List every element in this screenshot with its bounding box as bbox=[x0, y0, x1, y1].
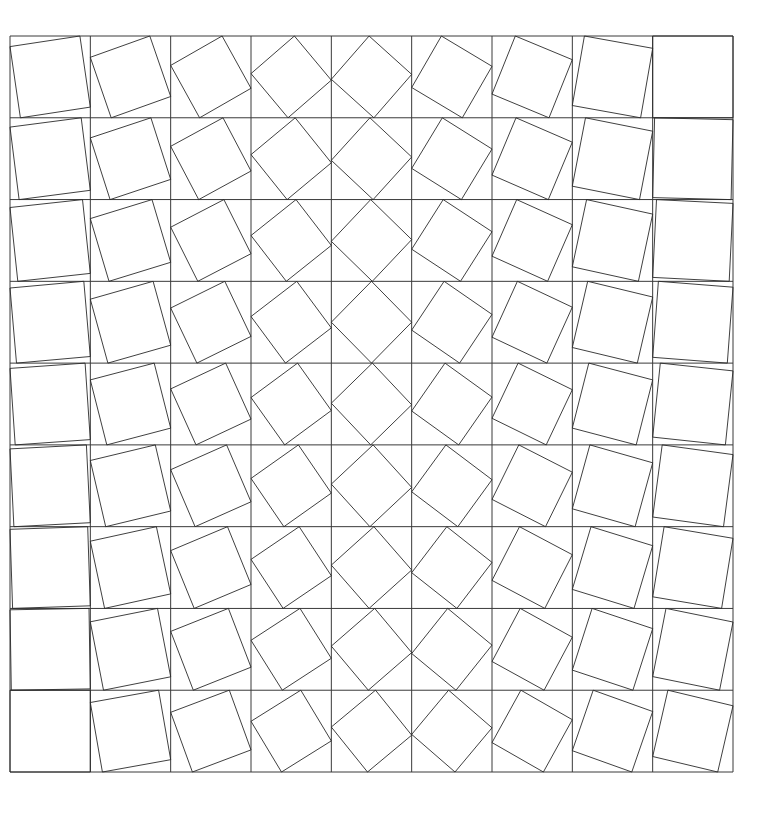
rotated-square bbox=[572, 527, 652, 609]
rotated-square bbox=[331, 527, 411, 609]
rotated-square bbox=[90, 200, 170, 282]
rotated-square bbox=[412, 445, 492, 527]
rotated-square bbox=[331, 118, 411, 200]
rotated-square bbox=[10, 363, 90, 445]
rotated-square bbox=[492, 445, 572, 527]
rotated-square bbox=[492, 36, 572, 118]
rotated-square bbox=[171, 36, 251, 118]
rotated-square bbox=[653, 363, 733, 445]
rotated-square bbox=[90, 363, 170, 445]
rotated-square bbox=[10, 36, 90, 118]
rotated-square bbox=[572, 608, 652, 690]
rotated-square bbox=[10, 118, 90, 200]
rotated-square bbox=[653, 36, 733, 118]
rotated-square bbox=[10, 608, 90, 690]
rotated-square bbox=[90, 118, 170, 200]
rotated-square bbox=[171, 445, 251, 527]
rotated-square bbox=[251, 363, 331, 445]
rotated-square bbox=[412, 118, 492, 200]
rotated-square bbox=[171, 281, 251, 363]
rotated-square bbox=[572, 363, 652, 445]
rotated-square bbox=[653, 118, 733, 200]
rotated-square bbox=[492, 200, 572, 282]
rotated-square bbox=[412, 527, 492, 609]
rotated-square bbox=[492, 690, 572, 772]
rotated-square bbox=[171, 200, 251, 282]
rotated-square bbox=[331, 200, 411, 282]
rotated-square bbox=[251, 200, 331, 282]
rotated-square bbox=[10, 200, 90, 282]
rotated-square bbox=[331, 690, 411, 772]
rotated-square bbox=[10, 527, 90, 609]
rotated-square bbox=[251, 690, 331, 772]
rotated-square bbox=[572, 200, 652, 282]
rotated-square bbox=[412, 200, 492, 282]
rotated-square bbox=[10, 281, 90, 363]
rotated-square bbox=[492, 363, 572, 445]
rotated-square bbox=[492, 118, 572, 200]
rotated-square bbox=[492, 281, 572, 363]
rotated-square bbox=[412, 281, 492, 363]
rotated-square bbox=[572, 118, 652, 200]
rotated-square bbox=[572, 281, 652, 363]
rotated-square bbox=[492, 527, 572, 609]
rotated-square bbox=[171, 608, 251, 690]
grid-lines bbox=[10, 36, 733, 772]
rotated-square bbox=[331, 36, 411, 118]
rotated-square bbox=[412, 690, 492, 772]
rotated-square bbox=[10, 690, 90, 772]
rotated-square bbox=[10, 445, 90, 527]
rotated-square bbox=[653, 200, 733, 282]
rotated-square bbox=[412, 36, 492, 118]
rotated-square bbox=[653, 445, 733, 527]
rotated-square bbox=[251, 608, 331, 690]
rotated-square bbox=[90, 527, 170, 609]
rotated-square bbox=[90, 445, 170, 527]
rotated-square bbox=[412, 608, 492, 690]
rotated-square bbox=[653, 608, 733, 690]
rotated-square bbox=[251, 118, 331, 200]
square-tiling-diagram bbox=[0, 0, 771, 816]
rotated-square bbox=[653, 281, 733, 363]
rotated-square bbox=[251, 36, 331, 118]
rotated-square bbox=[90, 281, 170, 363]
rotated-squares bbox=[10, 36, 733, 772]
rotated-square bbox=[331, 445, 411, 527]
rotated-square bbox=[331, 281, 411, 363]
rotated-square bbox=[492, 608, 572, 690]
rotated-square bbox=[251, 527, 331, 609]
rotated-square bbox=[171, 363, 251, 445]
rotated-square bbox=[653, 527, 733, 609]
rotated-square bbox=[171, 690, 251, 772]
rotated-square bbox=[171, 118, 251, 200]
rotated-square bbox=[90, 608, 170, 690]
rotated-square bbox=[653, 690, 733, 772]
rotated-square bbox=[572, 690, 652, 772]
rotated-square bbox=[412, 363, 492, 445]
rotated-square bbox=[90, 690, 170, 772]
rotated-square bbox=[572, 36, 652, 118]
rotated-square bbox=[251, 281, 331, 363]
rotated-square bbox=[331, 363, 411, 445]
rotated-square bbox=[171, 527, 251, 609]
rotated-square bbox=[572, 445, 652, 527]
rotated-square bbox=[331, 608, 411, 690]
rotated-square bbox=[90, 36, 170, 118]
rotated-square bbox=[251, 445, 331, 527]
